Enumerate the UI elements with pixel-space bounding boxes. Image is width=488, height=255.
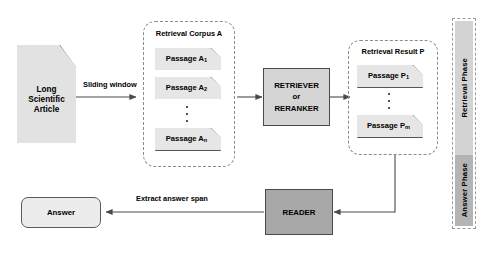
edge-label-sliding-window: Sliding window xyxy=(83,80,137,89)
phase-bar-retrieval: Retrieval Phase xyxy=(455,21,473,155)
passage-p1-base: Passage P xyxy=(368,71,406,80)
source-document-line3: Article xyxy=(28,105,64,115)
group-title-retrieval-corpus: Retrieval Corpus A xyxy=(143,29,235,38)
passage-p1-sub: 1 xyxy=(406,74,409,81)
passage-p1-label: Passage P1 xyxy=(357,65,423,87)
retriever-box[interactable]: RETRIEVER or RERANKER xyxy=(263,68,330,126)
retriever-line2: or xyxy=(274,91,319,102)
passage-a1: Passage A1 xyxy=(155,48,221,70)
source-document-label: Long Scientific Article xyxy=(17,45,76,143)
ellipsis-corpus xyxy=(184,106,190,122)
diagram-canvas: Long Scientific Article Sliding window R… xyxy=(0,0,488,255)
source-document-line1: Long xyxy=(28,85,64,95)
phase-label-retrieval: Retrieval Phase xyxy=(460,58,469,118)
passage-an-base: Passage A xyxy=(166,134,204,143)
passage-pm: Passage Pm xyxy=(357,115,423,137)
passage-p1: Passage P1 xyxy=(357,65,423,87)
passage-an-sub: n xyxy=(204,137,207,144)
phase-label-answer: Answer Phase xyxy=(460,163,469,217)
edge-result-to-reader xyxy=(334,155,395,212)
passage-pm-base: Passage P xyxy=(367,121,405,130)
reader-box[interactable]: READER xyxy=(265,189,333,235)
passage-a1-base: Passage A xyxy=(166,54,204,63)
passage-a2: Passage A2 xyxy=(155,77,221,99)
reader-label: READER xyxy=(283,208,316,217)
answer-box[interactable]: Answer xyxy=(21,197,101,228)
passage-a1-sub: 1 xyxy=(204,57,207,64)
retriever-line1: RETRIEVER xyxy=(274,80,319,91)
passage-pm-label: Passage Pm xyxy=(357,115,423,137)
group-retrieval-result xyxy=(348,40,438,155)
group-title-retrieval-result: Retrieval Result P xyxy=(348,47,438,56)
passage-a2-label: Passage A2 xyxy=(155,77,221,99)
source-document-line2: Scientific xyxy=(28,95,64,105)
source-document: Long Scientific Article xyxy=(17,45,76,143)
edge-label-extract-answer-span: Extract answer span xyxy=(136,194,208,203)
passage-pm-sub: m xyxy=(405,124,410,131)
passage-an: Passage An xyxy=(155,128,221,150)
phase-bar-answer: Answer Phase xyxy=(455,155,473,226)
passage-a1-label: Passage A1 xyxy=(155,48,221,70)
retriever-line3: RERANKER xyxy=(274,103,319,114)
passage-an-label: Passage An xyxy=(155,128,221,150)
passage-a2-base: Passage A xyxy=(166,83,204,92)
answer-label: Answer xyxy=(47,208,75,217)
passage-a2-sub: 2 xyxy=(204,86,207,93)
ellipsis-result xyxy=(386,93,392,109)
